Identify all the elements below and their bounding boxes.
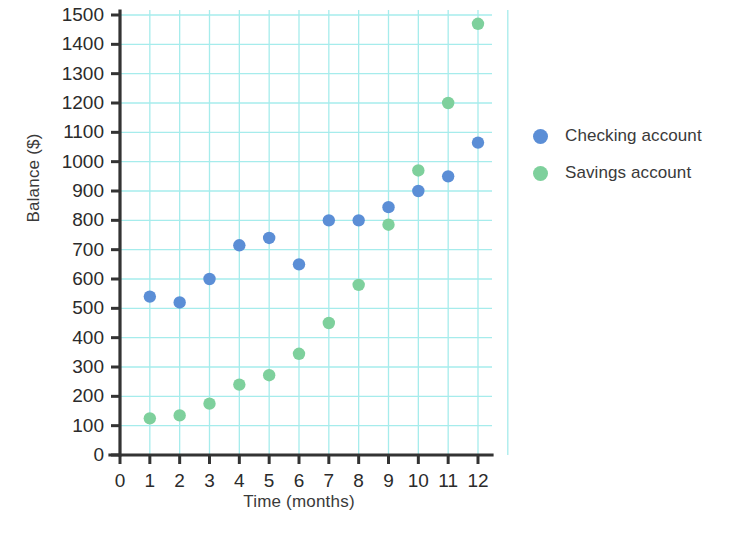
circle-marker-green (533, 166, 548, 181)
x-axis-tick-label: 12 (458, 471, 498, 490)
legend-item-label: Savings account (565, 163, 691, 183)
legend-item[interactable]: Checking account (533, 121, 743, 151)
x-axis-tick-labels: 0123456789101112 (0, 0, 745, 544)
scatter-plot-figure: 0100200300400500600700800900100011001200… (0, 0, 745, 544)
chart-legend: Checking accountSavings account (533, 121, 743, 195)
legend-item-label: Checking account (565, 126, 702, 146)
circle-marker-blue (533, 129, 548, 144)
x-axis-title: Time (months) (120, 492, 478, 512)
legend-item[interactable]: Savings account (533, 158, 743, 188)
